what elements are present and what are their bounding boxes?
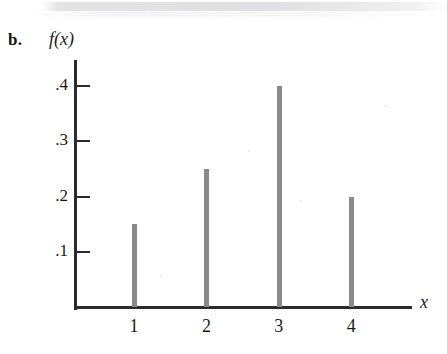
bar	[277, 86, 282, 307]
y-axis-tick-label: .1	[34, 241, 68, 261]
y-axis-line	[74, 60, 77, 310]
x-axis-tick-label: 2	[193, 316, 219, 337]
bar	[349, 197, 354, 307]
y-axis-tick	[77, 196, 90, 198]
y-axis-tick-label: .3	[34, 130, 68, 150]
scan-artifact-band	[42, 2, 447, 11]
y-axis-tick-label: .2	[34, 186, 68, 206]
x-axis-tick-label: 4	[338, 316, 364, 337]
x-axis-line	[74, 306, 412, 309]
x-axis-tick-label: 1	[121, 316, 147, 337]
x-axis-tick-label: 3	[266, 316, 292, 337]
bar	[204, 169, 209, 307]
y-axis-tick-label: .4	[34, 75, 68, 95]
paper-speckle	[160, 275, 162, 277]
y-axis-tick	[77, 85, 90, 87]
paper-speckle	[248, 150, 250, 152]
x-axis-title: x	[420, 292, 428, 313]
probability-mass-function-figure: b. f(x) x .1.2.3.4 1234	[0, 0, 447, 354]
y-axis-title: f(x)	[49, 29, 74, 50]
part-label: b.	[8, 30, 22, 50]
y-axis-tick	[77, 251, 90, 253]
paper-speckle	[385, 105, 387, 107]
y-axis-tick	[77, 140, 90, 142]
paper-speckle	[300, 200, 302, 202]
scan-artifact-band-secondary	[30, 11, 430, 17]
bar	[132, 224, 137, 307]
